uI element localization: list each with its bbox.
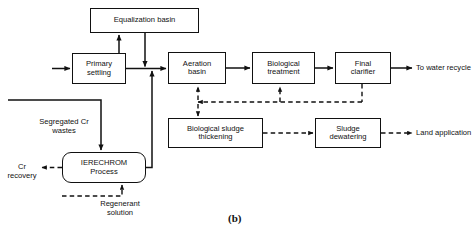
node-label: Biological treatment xyxy=(265,60,302,77)
label-to-water-recycle: To water recycle xyxy=(416,64,476,73)
process-flow-diagram: Equalization basin Primary settling Aera… xyxy=(0,0,476,240)
regenerant-feed xyxy=(62,185,122,196)
node-label: IERECHROM Process xyxy=(79,159,129,176)
node-label: Sludge dewatering xyxy=(327,125,368,142)
node-biological-treatment[interactable]: Biological treatment xyxy=(252,52,315,84)
node-aeration-basin[interactable]: Aeration basin xyxy=(168,52,226,84)
figure-caption: (b) xyxy=(228,212,241,224)
node-biological-sludge-thickening[interactable]: Biological sludge thickening xyxy=(168,118,263,148)
node-label: Biological sludge thickening xyxy=(185,125,246,142)
label-regenerant-solution: Regenerant solution xyxy=(82,200,158,217)
node-primary-settling[interactable]: Primary settling xyxy=(72,53,126,84)
node-ierechrom-process[interactable]: IERECHROM Process xyxy=(62,152,146,183)
node-final-clarifier[interactable]: Final clarifier xyxy=(335,52,391,84)
node-equalization-basin[interactable]: Equalization basin xyxy=(90,8,199,33)
node-label: Aeration basin xyxy=(181,60,213,77)
label-land-application: Land application xyxy=(416,129,476,138)
node-label: Primary settling xyxy=(84,60,114,77)
label-segregated-cr-wastes: Segregated Cr wastes xyxy=(26,118,102,135)
node-sludge-dewatering[interactable]: Sludge dewatering xyxy=(315,118,381,148)
node-label: Final clarifier xyxy=(349,60,377,77)
node-label: Equalization basin xyxy=(112,16,178,25)
label-cr-recovery: Cr recovery xyxy=(2,163,42,180)
ierechrom-right-leg xyxy=(146,152,152,168)
